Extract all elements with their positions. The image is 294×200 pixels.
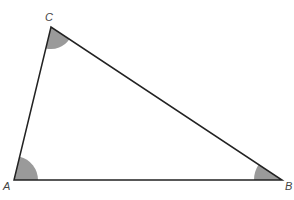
angle-c-marker [46,27,70,49]
triangle-abc [14,27,282,180]
vertex-label-a: A [2,180,10,192]
triangle-diagram: A B C [0,0,294,200]
angle-markers [14,27,282,180]
angle-a-marker [14,157,38,180]
vertex-label-c: C [45,11,53,23]
vertex-label-b: B [285,180,292,192]
